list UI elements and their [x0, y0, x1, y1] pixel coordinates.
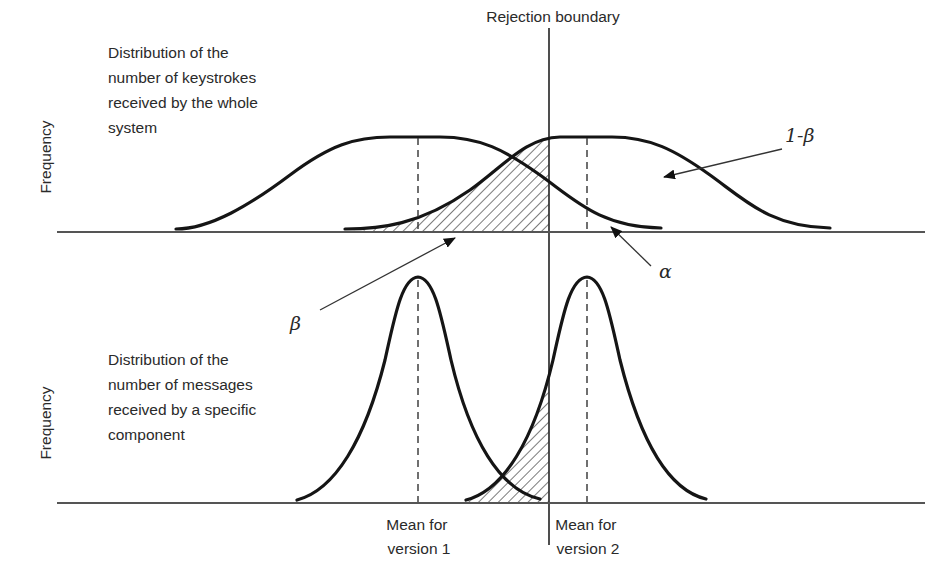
mean-version-1-line-1: Mean for [386, 516, 447, 533]
bottom-description-line-1: Distribution of the [108, 351, 229, 368]
hypothesis-test-diagram: Rejection boundary Frequency Distributio… [0, 0, 952, 581]
mean-version-1-line-2: version 1 [388, 540, 451, 557]
one-minus-beta-label: 1-β [785, 124, 815, 146]
mean-version-1-label: Mean for version 1 [386, 516, 451, 557]
top-description-line-4: system [108, 119, 157, 136]
bottom-y-axis-label: Frequency [37, 386, 54, 459]
top-description-line-3: received by the whole [108, 94, 258, 111]
bottom-panel: Frequency Distribution of the number of … [37, 277, 925, 503]
bottom-description-line-3: received by a specific [108, 401, 256, 418]
bottom-description-line-4: component [108, 426, 185, 443]
mean-version-2-line-1: Mean for [555, 516, 616, 533]
mean-version-2-label: Mean for version 2 [555, 516, 620, 557]
alpha-label: α [659, 260, 672, 282]
top-description: Distribution of the number of keystrokes… [108, 44, 262, 136]
mean-version-2-line-2: version 2 [557, 540, 620, 557]
top-description-line-1: Distribution of the [108, 44, 229, 61]
top-y-axis-label: Frequency [37, 120, 54, 193]
bottom-description-line-2: number of messages [108, 376, 253, 393]
one-minus-beta-arrow [664, 149, 782, 177]
beta-label: β [289, 312, 301, 334]
bottom-curve-version-2 [466, 277, 706, 500]
rejection-boundary-label: Rejection boundary [486, 8, 620, 25]
top-description-line-2: number of keystrokes [108, 69, 256, 86]
top-panel: Frequency Distribution of the number of … [37, 44, 925, 282]
bottom-description: Distribution of the number of messages r… [108, 351, 261, 443]
